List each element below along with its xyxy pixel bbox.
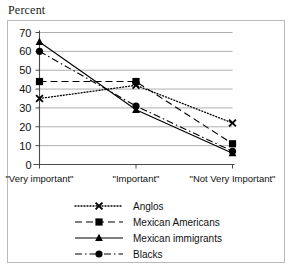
square-marker — [132, 78, 139, 85]
legend-item: Blacks — [75, 249, 162, 260]
square-marker — [95, 218, 102, 225]
x-category-label: "Very important" — [6, 173, 74, 184]
series-line — [40, 42, 233, 153]
triangle-marker — [36, 38, 44, 45]
y-tick-label: 40 — [19, 83, 31, 95]
legend-label: Blacks — [133, 249, 162, 260]
series-line — [40, 51, 233, 151]
series-lines-group — [40, 42, 233, 153]
circle-marker — [36, 48, 43, 55]
series-markers-group — [36, 38, 237, 157]
legend-label: Mexican immigrants — [133, 233, 222, 244]
square-marker — [229, 140, 236, 147]
y-tick-label: 10 — [19, 140, 31, 152]
y-tick-label: 20 — [19, 121, 31, 133]
chart-plot: 010203040506070 "Very important""Importa… — [0, 0, 295, 273]
square-marker — [36, 78, 43, 85]
legend: AnglosMexican AmericansMexican immigrant… — [75, 201, 222, 260]
x-category-labels-group: "Very important""Important""Not Very Imp… — [6, 173, 276, 184]
legend-item: Mexican Americans — [75, 217, 220, 228]
x-category-label: "Important" — [113, 173, 160, 184]
y-tick-label: 30 — [19, 102, 31, 114]
y-tick-label: 70 — [19, 27, 31, 39]
circle-marker — [132, 102, 139, 109]
x-category-label: "Not Very Important" — [190, 173, 276, 184]
y-tick-label: 50 — [19, 64, 31, 76]
x-marker — [229, 120, 236, 127]
circle-marker — [95, 250, 102, 257]
legend-label: Anglos — [133, 201, 164, 212]
chart-figure: Percent 010203040506070 "Very important"… — [0, 0, 295, 273]
legend-item: Anglos — [75, 201, 164, 212]
legend-label: Mexican Americans — [133, 217, 220, 228]
y-tick-label: 60 — [19, 45, 31, 57]
circle-marker — [229, 148, 236, 155]
y-tick-labels-group: 010203040506070 — [19, 27, 31, 171]
gridlines-group — [40, 33, 233, 165]
y-tick-label: 0 — [25, 159, 31, 171]
legend-item: Mexican immigrants — [75, 233, 222, 244]
